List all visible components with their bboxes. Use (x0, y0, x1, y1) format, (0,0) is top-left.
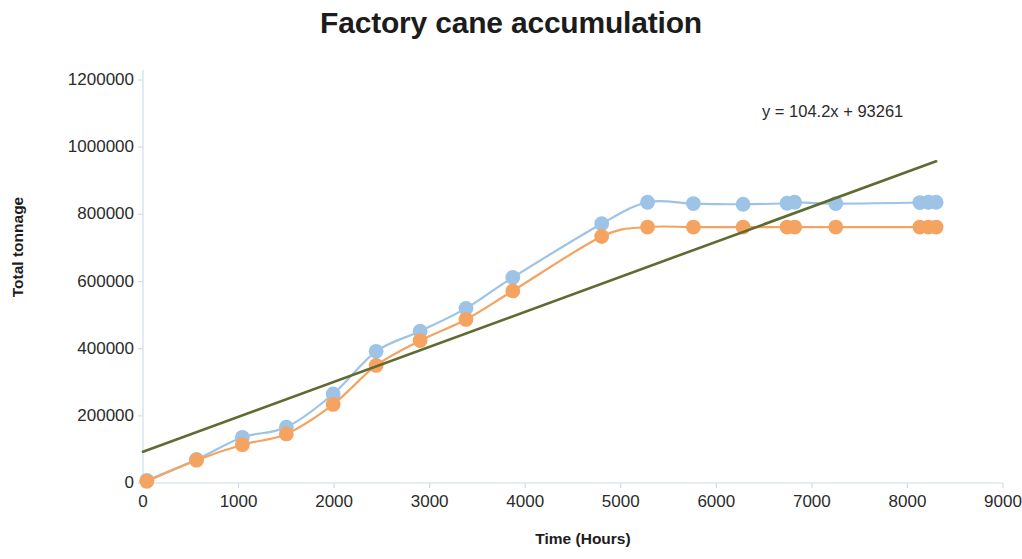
data-point-marker (459, 312, 474, 327)
data-point-marker (736, 197, 751, 212)
data-point-marker (686, 220, 701, 235)
data-point-marker (828, 220, 843, 235)
series-path (147, 201, 936, 480)
data-point-marker (929, 195, 944, 210)
chart-container: Factory cane accumulation Total tonnage … (0, 0, 1022, 559)
data-point-marker (594, 229, 609, 244)
series-path (147, 226, 936, 481)
series-layer (139, 161, 943, 488)
axes-layer (138, 70, 1003, 488)
data-point-marker (326, 397, 341, 412)
data-point-marker (235, 437, 250, 452)
data-point-marker (505, 284, 520, 299)
data-point-marker (369, 344, 384, 359)
data-point-marker (279, 427, 294, 442)
data-point-marker (787, 195, 802, 210)
trendline-linear (143, 161, 936, 451)
data-point-marker (686, 196, 701, 211)
trendline-path (143, 161, 936, 451)
data-point-marker (640, 220, 655, 235)
data-point-marker (787, 220, 802, 235)
data-point-marker (640, 195, 655, 210)
series-blue (139, 195, 943, 488)
data-point-marker (189, 453, 204, 468)
data-point-marker (594, 216, 609, 231)
data-point-marker (139, 474, 154, 489)
data-point-marker (929, 220, 944, 235)
plot-area (0, 0, 1022, 559)
data-point-marker (413, 333, 428, 348)
data-point-marker (505, 270, 520, 285)
